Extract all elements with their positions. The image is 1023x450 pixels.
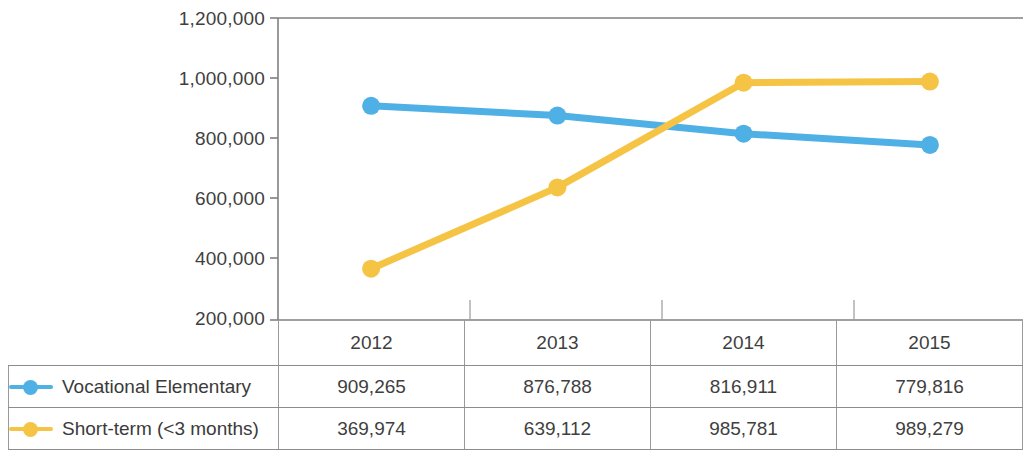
legend-entry-short-term[interactable]: Short-term (<3 months) bbox=[9, 408, 279, 450]
data-point-marker[interactable] bbox=[921, 136, 939, 154]
plot-area: 1,200,000 1,000,000 800,000 600,000 400,… bbox=[0, 0, 1023, 330]
line-marker-icon bbox=[9, 379, 53, 395]
cell-shortterm-2012: 369,974 bbox=[279, 408, 465, 450]
column-header-2014: 2014 bbox=[651, 320, 837, 366]
cell-vocational-2014: 816,911 bbox=[651, 366, 837, 408]
data-point-marker[interactable] bbox=[362, 260, 380, 278]
cell-shortterm-2015: 989,279 bbox=[837, 408, 1023, 450]
cell-vocational-2012: 909,265 bbox=[279, 366, 465, 408]
data-point-marker[interactable] bbox=[921, 73, 939, 91]
data-table: 2012 2013 2014 2015 Vocational Elementar… bbox=[8, 320, 1023, 450]
column-header-2012: 2012 bbox=[279, 320, 465, 366]
cell-vocational-2015: 779,816 bbox=[837, 366, 1023, 408]
table-row: Vocational Elementary 909,265 876,788 81… bbox=[9, 366, 1023, 408]
cell-shortterm-2014: 985,781 bbox=[651, 408, 837, 450]
data-point-marker[interactable] bbox=[362, 97, 380, 115]
series-label: Short-term (<3 months) bbox=[62, 418, 259, 440]
legend-entry-vocational-elementary[interactable]: Vocational Elementary bbox=[9, 366, 279, 408]
data-point-marker[interactable] bbox=[548, 178, 566, 196]
plot-svg bbox=[0, 0, 1023, 330]
data-point-marker[interactable] bbox=[548, 107, 566, 125]
series-layer bbox=[362, 73, 939, 278]
table-row: Short-term (<3 months) 369,974 639,112 9… bbox=[9, 408, 1023, 450]
line-marker-icon bbox=[9, 421, 53, 437]
header-corner-cell bbox=[9, 320, 279, 366]
column-header-2013: 2013 bbox=[465, 320, 651, 366]
cell-shortterm-2013: 639,112 bbox=[465, 408, 651, 450]
data-point-marker[interactable] bbox=[735, 74, 753, 92]
data-table-container: 2012 2013 2014 2015 Vocational Elementar… bbox=[8, 320, 1023, 447]
column-header-2015: 2015 bbox=[837, 320, 1023, 366]
cell-vocational-2013: 876,788 bbox=[465, 366, 651, 408]
table-header-row: 2012 2013 2014 2015 bbox=[9, 320, 1023, 366]
series-label: Vocational Elementary bbox=[62, 376, 251, 398]
data-point-marker[interactable] bbox=[735, 125, 753, 143]
